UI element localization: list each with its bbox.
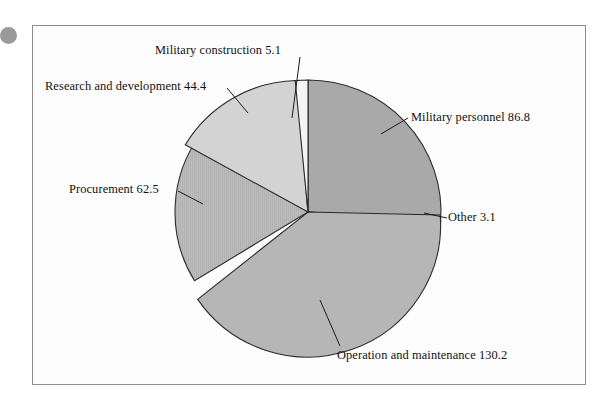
pie-label-military-construction: Military construction 5.1: [155, 44, 281, 58]
pie-label-operation-maintenance: Operation and maintenance 130.2: [337, 349, 507, 363]
pie-label-research-development: Research and development 44.4: [45, 80, 206, 94]
pie-slice-military-personnel[interactable]: [308, 80, 441, 221]
pie-label-procurement: Procurement 62.5: [69, 183, 159, 197]
pie-label-other: Other 3.1: [448, 211, 496, 225]
pie-chart: [0, 0, 613, 411]
pie-label-military-personnel: Military personnel 86.8: [411, 111, 530, 125]
